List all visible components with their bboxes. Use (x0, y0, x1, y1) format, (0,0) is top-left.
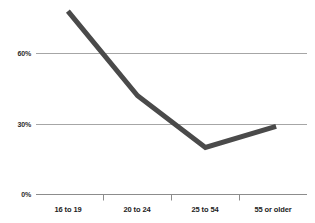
chart-container: 60% 30% 0% 16 to 19 20 to 24 25 to 54 55… (0, 0, 315, 223)
y-axis-label-30: 30% (18, 121, 32, 128)
y-axis-label-0: 0% (21, 191, 32, 198)
x-axis-label-16-to-19: 16 to 19 (54, 205, 81, 214)
line-chart-plot: 60% 30% 0% 16 to 19 20 to 24 25 to 54 55… (0, 0, 315, 223)
x-axis-label-20-to-24: 20 to 24 (123, 205, 151, 214)
data-series-line (68, 11, 276, 147)
x-axis-ticks (104, 195, 240, 201)
y-axis-label-60: 60% (18, 50, 32, 57)
x-axis-label-25-to-54: 25 to 54 (191, 205, 219, 214)
x-axis-label-55-or-older: 55 or older (254, 205, 291, 214)
